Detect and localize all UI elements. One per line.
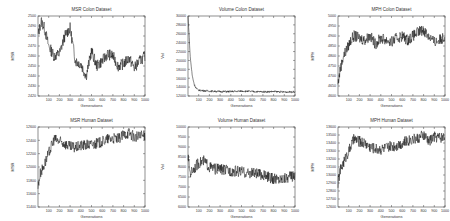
x-axis-label: Generations: [231, 103, 253, 108]
y-tick-label: 12600: [26, 125, 36, 129]
x-tick-label: 800: [121, 98, 127, 102]
x-tick-label: 700: [260, 98, 266, 102]
x-tick-label: 100: [46, 209, 52, 213]
y-tick-label: 2470: [28, 44, 36, 48]
x-tick-label: 600: [249, 98, 255, 102]
y-tick-label: 12700: [326, 197, 336, 201]
chart-msr-human: MSR Human Dataset11400116001180012000122…: [0, 111, 150, 221]
y-tick-label: 4800: [328, 54, 336, 58]
x-tick-label: 900: [131, 98, 137, 102]
y-tick-label: 7500: [178, 175, 186, 179]
y-tick-label: 7000: [178, 185, 186, 189]
y-tick-label: 26000: [176, 32, 186, 36]
plot-area: [38, 16, 145, 96]
y-tick-label: 13300: [326, 149, 336, 153]
y-tick-label: 2440: [28, 74, 36, 78]
x-tick-label: 900: [431, 98, 437, 102]
x-tick-label: 400: [228, 209, 234, 213]
y-axis-label: MSR: [10, 51, 15, 60]
chart-volume-colon: Volume Colon Dataset12000140001600018000…: [150, 0, 300, 110]
y-tick-label: 4700: [328, 74, 336, 78]
x-tick-label: 100: [346, 209, 352, 213]
x-tick-label: 1000: [441, 98, 449, 102]
y-tick-label: 28000: [176, 23, 186, 27]
chart-title: MPH Human Dataset: [370, 118, 413, 123]
x-tick-label: 600: [99, 98, 105, 102]
x-tick-label: 500: [239, 98, 245, 102]
y-tick-label: 10000: [176, 125, 186, 129]
y-tick-label: 20000: [176, 59, 186, 63]
chart-mph-human: MPH Human Dataset12600127001280012900130…: [300, 111, 450, 221]
x-tick-label: 600: [249, 209, 255, 213]
x-tick-label: 800: [271, 209, 277, 213]
y-tick-label: 2460: [28, 54, 36, 58]
chart-title: MPH Colon Dataset: [372, 7, 413, 12]
plot-area: [188, 16, 295, 96]
x-tick-label: 400: [228, 98, 234, 102]
y-tick-label: 12200: [26, 152, 36, 156]
y-tick-label: 11600: [26, 192, 36, 196]
y-tick-label: 18000: [176, 68, 186, 72]
y-tick-label: 11400: [26, 205, 36, 209]
x-tick-label: 500: [89, 209, 95, 213]
x-tick-label: 300: [367, 209, 373, 213]
x-tick-label: 800: [421, 98, 427, 102]
x-tick-label: 100: [196, 98, 202, 102]
y-tick-label: 12000: [26, 165, 36, 169]
y-tick-label: 2430: [28, 84, 36, 88]
x-tick-label: 500: [239, 209, 245, 213]
x-tick-label: 300: [217, 98, 223, 102]
y-tick-label: 12600: [326, 205, 336, 209]
x-tick-label: 700: [410, 209, 416, 213]
y-tick-label: 12800: [326, 189, 336, 193]
y-tick-label: 2480: [28, 34, 36, 38]
chart-mph-colon: MPH Colon Dataset46004650470047504800485…: [300, 0, 450, 110]
y-axis-label: Vol: [160, 164, 165, 170]
x-tick-label: 100: [196, 209, 202, 213]
x-tick-label: 200: [206, 98, 212, 102]
y-tick-label: 22000: [176, 50, 186, 54]
x-tick-label: 200: [56, 209, 62, 213]
y-tick-label: 2450: [28, 64, 36, 68]
y-tick-label: 8500: [178, 155, 186, 159]
x-tick-label: 700: [110, 209, 116, 213]
y-tick-label: 12900: [326, 181, 336, 185]
x-tick-label: 1000: [291, 209, 299, 213]
x-tick-label: 700: [110, 98, 116, 102]
x-tick-label: 1000: [441, 209, 449, 213]
y-tick-label: 14000: [176, 85, 186, 89]
x-tick-label: 300: [67, 209, 73, 213]
x-tick-label: 200: [356, 209, 362, 213]
x-tick-label: 100: [346, 98, 352, 102]
y-tick-label: 4600: [328, 94, 336, 98]
x-tick-label: 700: [410, 98, 416, 102]
x-tick-label: 300: [67, 98, 73, 102]
y-tick-label: 16000: [176, 77, 186, 81]
y-tick-label: 4900: [328, 34, 336, 38]
y-axis-label: Vol: [160, 53, 165, 59]
x-tick-label: 500: [389, 209, 395, 213]
y-tick-label: 4950: [328, 24, 336, 28]
y-tick-label: 11800: [26, 179, 36, 183]
y-tick-label: 2500: [28, 14, 36, 18]
x-tick-label: 700: [260, 209, 266, 213]
x-tick-label: 400: [378, 98, 384, 102]
y-tick-label: 12000: [176, 94, 186, 98]
x-tick-label: 800: [271, 98, 277, 102]
x-tick-label: 600: [99, 209, 105, 213]
x-tick-label: 400: [78, 209, 84, 213]
chart-volume-human: Volume Human Dataset60006500700075008000…: [150, 111, 300, 221]
y-tick-label: 5000: [328, 14, 336, 18]
y-tick-label: 13500: [326, 133, 336, 137]
y-tick-label: 6000: [178, 205, 186, 209]
x-tick-label: 600: [399, 209, 405, 213]
x-tick-label: 300: [367, 98, 373, 102]
x-tick-label: 800: [421, 209, 427, 213]
y-axis-label: MSR: [10, 162, 15, 171]
plot-area: [338, 16, 445, 96]
chart-title: Volume Human Dataset: [218, 118, 266, 123]
y-tick-label: 4650: [328, 84, 336, 88]
plot-area: [188, 127, 295, 207]
y-tick-label: 30000: [176, 14, 186, 18]
x-tick-label: 200: [56, 98, 62, 102]
